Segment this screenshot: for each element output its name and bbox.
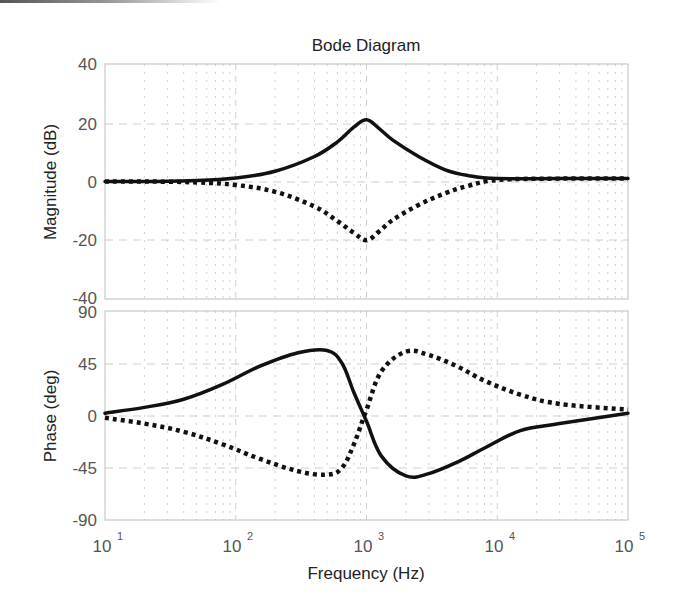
x-tick-1e3: 10 3 bbox=[354, 530, 385, 556]
phase-tick-neg45: -45 bbox=[72, 459, 97, 478]
magnitude-plot bbox=[105, 64, 628, 299]
svg-text:2: 2 bbox=[247, 530, 253, 542]
magnitude-axis-label: Magnitude (dB) bbox=[41, 124, 60, 240]
x-axis-label: Frequency (Hz) bbox=[307, 564, 424, 583]
svg-text:10: 10 bbox=[223, 537, 242, 556]
mag-tick-neg20: -20 bbox=[72, 231, 97, 250]
phase-tick-neg90: -90 bbox=[72, 511, 97, 530]
chart-title: Bode Diagram bbox=[312, 36, 421, 55]
svg-text:10: 10 bbox=[615, 537, 634, 556]
bode-diagram: Bode Diagram 40 20 0 -20 -40 90 45 0 -45… bbox=[0, 0, 676, 610]
phase-tick-0: 0 bbox=[88, 407, 97, 426]
mag-tick-20: 20 bbox=[78, 115, 97, 134]
svg-text:10: 10 bbox=[93, 537, 112, 556]
mag-tick-40: 40 bbox=[78, 55, 97, 74]
phase-plot bbox=[105, 311, 628, 520]
x-tick-1e1: 10 1 bbox=[93, 530, 124, 556]
svg-text:10: 10 bbox=[485, 537, 504, 556]
phase-tick-45: 45 bbox=[78, 355, 97, 374]
x-tick-1e5: 10 5 bbox=[615, 530, 646, 556]
mag-tick-0: 0 bbox=[88, 173, 97, 192]
svg-text:10: 10 bbox=[354, 537, 373, 556]
x-tick-1e4: 10 4 bbox=[485, 530, 516, 556]
svg-text:3: 3 bbox=[378, 530, 384, 542]
svg-text:4: 4 bbox=[509, 530, 515, 542]
svg-text:5: 5 bbox=[639, 530, 645, 542]
x-tick-1e2: 10 2 bbox=[223, 530, 254, 556]
phase-axis-label: Phase (deg) bbox=[41, 370, 60, 463]
phase-tick-90: 90 bbox=[78, 303, 97, 322]
svg-text:1: 1 bbox=[117, 530, 123, 542]
